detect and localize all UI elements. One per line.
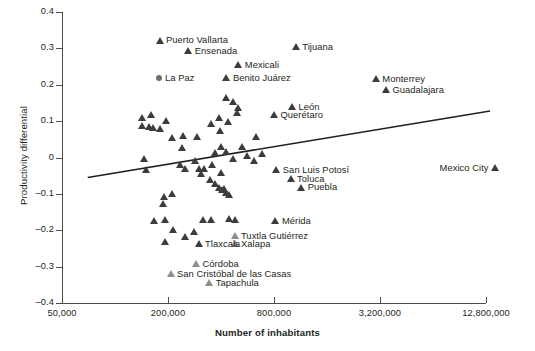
data-point (179, 132, 187, 139)
data-point (147, 111, 155, 118)
data-point-labeled (192, 260, 200, 267)
data-point (250, 157, 258, 164)
data-point-labeled (156, 37, 164, 44)
data-point-labeled (271, 217, 279, 224)
data-point-labeled (297, 184, 305, 191)
data-point (199, 216, 207, 223)
data-point-labeled (222, 74, 230, 81)
data-point-labeled (287, 175, 295, 182)
city-label: La Paz (165, 73, 195, 83)
data-point-labeled (195, 240, 203, 247)
city-label: Mérida (282, 216, 311, 226)
data-point (224, 118, 232, 125)
data-point (161, 238, 169, 245)
data-point (178, 144, 186, 151)
data-point (140, 155, 148, 162)
data-point-labeled (292, 43, 300, 50)
data-point (181, 165, 189, 172)
data-point (231, 216, 239, 223)
data-point (233, 109, 241, 116)
data-point-labeled (372, 75, 380, 82)
data-point-labeled (234, 61, 242, 68)
data-point (138, 114, 146, 121)
data-point (142, 166, 150, 173)
data-point (181, 233, 189, 240)
data-point (238, 143, 246, 150)
city-label: Puerto Vallarta (166, 35, 228, 45)
city-label: Ensenada (195, 46, 238, 56)
data-point (229, 155, 237, 162)
city-label: Benito Juárez (233, 73, 291, 83)
data-point (207, 216, 215, 223)
data-point (211, 149, 219, 156)
data-point (162, 117, 170, 124)
data-point (168, 134, 176, 141)
scatter-plot-chart: 0.40.30.20.10–0.1–0.2–0.3–0.450,000200,0… (0, 0, 535, 351)
city-label: Querétaro (280, 110, 323, 120)
data-point (217, 169, 225, 176)
data-point-labeled (270, 111, 278, 118)
city-label: Xalapa (241, 239, 271, 249)
data-point (156, 125, 164, 132)
data-point (225, 191, 233, 198)
trend-line (0, 0, 535, 351)
data-point (169, 226, 177, 233)
data-point (258, 150, 266, 157)
data-point (252, 133, 260, 140)
data-point (216, 127, 224, 134)
city-label: Guadalajara (392, 85, 444, 95)
data-point (215, 114, 223, 121)
city-label: Monterrey (382, 74, 425, 84)
data-point (190, 228, 198, 235)
data-point-labeled (272, 166, 280, 173)
city-label: Mexicali (245, 60, 279, 70)
data-point-labeled (167, 270, 175, 277)
data-point-labeled (184, 47, 192, 54)
city-label: Tijuana (302, 42, 333, 52)
city-label: Mexico City (440, 163, 489, 173)
data-point (191, 157, 199, 164)
data-point (208, 161, 216, 168)
data-point (168, 190, 176, 197)
city-label: Puebla (308, 182, 338, 192)
data-point (161, 216, 169, 223)
data-point-labeled (382, 86, 390, 93)
city-label: Tlaxcala (205, 239, 240, 249)
data-point-labeled (205, 279, 213, 286)
data-point (150, 217, 158, 224)
city-label: Tapachula (216, 278, 259, 288)
data-point (207, 120, 215, 127)
data-point (159, 200, 167, 207)
data-point (193, 133, 201, 140)
data-point-labeled (491, 164, 499, 171)
